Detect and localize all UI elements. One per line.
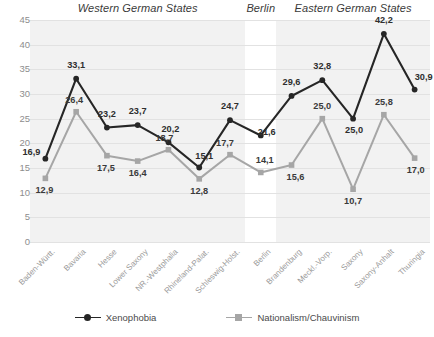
gridline (30, 94, 430, 95)
y-axis-tick-label: 0 (8, 237, 30, 247)
y-axis-tick-label: 25 (8, 114, 30, 124)
legend-square-marker-icon (226, 313, 252, 322)
data-label: 32,8 (313, 63, 331, 72)
chart-container: Western German StatesBerlinEastern Germa… (0, 0, 434, 337)
plot-area-background (30, 20, 430, 242)
data-label: 17,5 (97, 164, 115, 173)
group-header-3: Eastern German States (276, 2, 430, 14)
data-label: 23,7 (129, 107, 147, 116)
data-label: 26,4 (65, 96, 83, 105)
data-label: 25,0 (345, 126, 363, 135)
data-label: 16,9 (22, 148, 40, 157)
gridline (30, 217, 430, 218)
y-axis-tick-label: 10 (8, 188, 30, 198)
data-label: 25,8 (375, 98, 393, 107)
y-axis-tick-label: 30 (8, 89, 30, 99)
data-label: 12,9 (35, 187, 53, 196)
data-label: 18,7 (156, 134, 174, 143)
y-axis-tick-label: 40 (8, 40, 30, 50)
gridline (30, 168, 430, 169)
data-label: 17,0 (407, 167, 425, 176)
data-label: 17,7 (216, 139, 234, 148)
gridline (30, 45, 430, 46)
legend-circle-marker-icon (75, 313, 101, 322)
data-label: 42,2 (375, 16, 393, 25)
legend-label: Nationalism/Chauvinism (257, 312, 359, 323)
group-header-1: Western German States (30, 2, 245, 14)
data-label: 14,1 (256, 157, 274, 166)
gridline (30, 193, 430, 194)
data-label: 16,4 (129, 169, 147, 178)
group-header-2: Berlin (245, 2, 276, 14)
data-label: 25,0 (313, 102, 331, 111)
y-axis-tick-label: 35 (8, 64, 30, 74)
data-label: 21,6 (258, 129, 276, 138)
chart-legend: XenophobiaNationalism/Chauvinism (0, 305, 434, 329)
gridline (30, 119, 430, 120)
data-label: 33,1 (67, 61, 85, 70)
y-axis-tick-label: 15 (8, 163, 30, 173)
data-label: 12,8 (190, 187, 208, 196)
gridline (30, 20, 430, 21)
legend-label: Xenophobia (106, 312, 157, 323)
data-label: 15,6 (287, 173, 305, 182)
gridline (30, 242, 430, 243)
data-label: 29,6 (283, 78, 301, 87)
legend-item-2[interactable]: Nationalism/Chauvinism (226, 312, 359, 323)
data-label: 23,2 (98, 110, 116, 119)
y-axis-tick-label: 45 (8, 15, 30, 25)
data-label: 30,9 (415, 73, 433, 82)
data-label: 24,7 (221, 103, 239, 112)
data-label: 10,7 (344, 198, 362, 207)
gridline (30, 69, 430, 70)
y-axis-tick-label: 5 (8, 212, 30, 222)
data-label: 15,1 (195, 152, 213, 161)
legend-item-1[interactable]: Xenophobia (75, 312, 157, 323)
